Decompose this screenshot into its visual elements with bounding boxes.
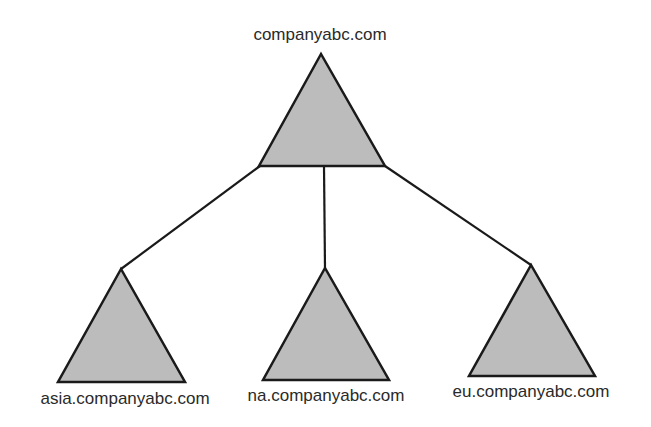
domain-tree-diagram: companyabc.com asia.companyabc.com na.co…: [0, 0, 651, 427]
na-domain-triangle-icon: [263, 268, 389, 380]
connectors: [121, 166, 531, 269]
root-domain-node: companyabc.com: [253, 25, 386, 166]
child-domain-node-na: na.companyabc.com: [248, 268, 405, 405]
child-domain-node-asia: asia.companyabc.com: [40, 269, 209, 408]
asia-domain-triangle-icon: [58, 269, 185, 382]
asia-domain-label: asia.companyabc.com: [40, 389, 209, 408]
root-domain-triangle-icon: [259, 54, 385, 166]
connector-root-to-na: [324, 166, 325, 268]
child-domain-node-eu: eu.companyabc.com: [453, 265, 610, 401]
connector-root-to-eu: [385, 166, 531, 265]
eu-domain-triangle-icon: [469, 265, 595, 376]
eu-domain-label: eu.companyabc.com: [453, 382, 610, 401]
root-domain-label: companyabc.com: [253, 25, 386, 44]
na-domain-label: na.companyabc.com: [248, 386, 405, 405]
connector-root-to-asia: [121, 166, 260, 269]
